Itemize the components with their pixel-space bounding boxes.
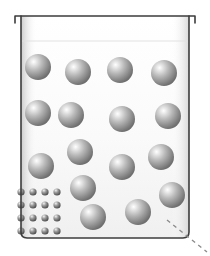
small-particle — [29, 214, 36, 221]
small-particle — [41, 188, 48, 195]
figure-canvas: Beaker containing large spheres and a cl… — [0, 0, 210, 256]
beaker-diagram — [0, 0, 210, 256]
large-sphere — [67, 139, 93, 165]
small-particle — [53, 188, 60, 195]
large-sphere — [65, 59, 91, 85]
small-particle — [29, 201, 36, 208]
small-particle — [41, 201, 48, 208]
large-sphere — [125, 199, 151, 225]
large-sphere — [58, 102, 84, 128]
large-sphere — [159, 182, 185, 208]
small-particle — [29, 188, 36, 195]
large-sphere — [109, 154, 135, 180]
large-sphere — [155, 103, 181, 129]
small-particle — [29, 227, 36, 234]
large-sphere — [25, 54, 51, 80]
large-sphere — [109, 106, 135, 132]
small-particle — [41, 227, 48, 234]
small-particle — [53, 227, 60, 234]
large-sphere — [107, 57, 133, 83]
large-sphere — [25, 100, 51, 126]
large-sphere — [80, 204, 106, 230]
large-sphere — [151, 60, 177, 86]
large-sphere — [70, 175, 96, 201]
small-particle — [53, 201, 60, 208]
large-sphere — [148, 144, 174, 170]
small-particle — [41, 214, 48, 221]
large-sphere — [28, 153, 54, 179]
small-particle — [53, 214, 60, 221]
